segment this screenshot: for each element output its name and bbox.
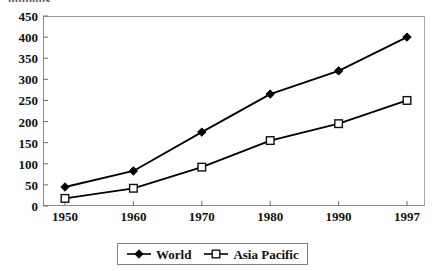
chart-legend: WorldAsia Pacific <box>117 243 308 265</box>
legend-label: World <box>156 248 191 261</box>
x-axis-tick-labels: 195019601970198019901997 <box>43 210 425 232</box>
data-point <box>266 90 274 98</box>
series-line <box>65 100 407 198</box>
y-axis-tick-0: 0 <box>0 200 38 213</box>
line-chart: millions 050100150200250300350400450 195… <box>0 0 436 271</box>
filled-diamond-icon <box>126 248 152 260</box>
data-point <box>130 184 138 192</box>
x-axis-tick-1950: 1950 <box>52 210 78 223</box>
legend-label: Asia Pacific <box>233 248 298 261</box>
y-axis-tick-350: 350 <box>0 52 38 65</box>
series-world <box>61 33 411 191</box>
y-axis-tick-100: 100 <box>0 157 38 170</box>
data-point <box>198 163 206 171</box>
y-axis-tick-250: 250 <box>0 94 38 107</box>
x-axis-tick-1990: 1990 <box>326 210 352 223</box>
open-square-icon <box>203 248 229 260</box>
y-axis-tick-150: 150 <box>0 136 38 149</box>
data-point <box>61 183 69 191</box>
y-axis-tick-300: 300 <box>0 73 38 86</box>
legend-marker <box>213 250 221 258</box>
y-axis-tick-400: 400 <box>0 31 38 44</box>
data-point <box>266 137 274 145</box>
x-axis-tick-1960: 1960 <box>120 210 146 223</box>
y-axis-tick-200: 200 <box>0 115 38 128</box>
y-axis-tick-50: 50 <box>0 178 38 191</box>
x-axis-tick-1970: 1970 <box>189 210 215 223</box>
data-point <box>334 67 342 75</box>
data-point <box>403 33 411 41</box>
data-point <box>403 97 411 105</box>
data-point <box>61 195 69 203</box>
legend-marker <box>135 250 143 258</box>
legend-entry-world: World <box>126 248 191 261</box>
y-axis-tick-450: 450 <box>0 10 38 23</box>
data-point <box>198 128 206 136</box>
data-point <box>129 167 137 175</box>
y-axis-tick-labels: 050100150200250300350400450 <box>0 0 38 271</box>
data-point <box>335 120 343 128</box>
legend-entry-asia-pacific: Asia Pacific <box>203 248 298 261</box>
x-axis-tick-1980: 1980 <box>257 210 283 223</box>
plot-series-layer <box>43 16 425 206</box>
x-axis-tick-1997: 1997 <box>394 210 420 223</box>
series-line <box>65 37 407 187</box>
